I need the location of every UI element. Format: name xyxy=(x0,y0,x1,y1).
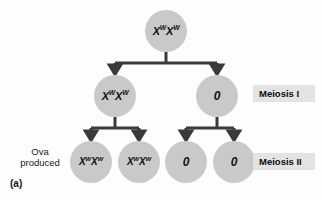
stage-label-meiosis-2: Meiosis II xyxy=(253,153,315,170)
stage-label-meiosis-1: Meiosis I xyxy=(253,85,315,102)
cell-ovum-4: 0 xyxy=(213,141,255,183)
panel-letter: (a) xyxy=(10,178,22,189)
connector-parent-to-meiosis1 xyxy=(115,52,217,70)
cell-ovum-3: 0 xyxy=(165,141,207,183)
cell-meiosis1-left: XWXW xyxy=(94,75,136,117)
cell-parent-genotype: XWXW xyxy=(153,26,180,37)
cell-ovum-4-genotype: 0 xyxy=(231,156,237,168)
cell-ovum-2-genotype: XWXW xyxy=(127,157,151,167)
connector-meiosis1-right-to-ova xyxy=(186,117,234,136)
ova-produced-note-line2: produced xyxy=(12,158,68,169)
cell-ovum-1-genotype: XWXW xyxy=(79,157,103,167)
cell-meiosis1-right: 0 xyxy=(196,75,238,117)
cell-meiosis1-right-genotype: 0 xyxy=(214,90,220,102)
cell-meiosis1-left-genotype: XWXW xyxy=(102,91,129,102)
oogenesis-nondisjunction-diagram: XWXW XWXW 0 XWXW XWXW 0 0 Meiosis I Meio… xyxy=(0,0,322,200)
ova-produced-note: Ova produced xyxy=(12,147,68,169)
connector-meiosis1-left-to-ova xyxy=(91,117,139,136)
cell-ovum-2: XWXW xyxy=(118,141,160,183)
cell-ovum-3-genotype: 0 xyxy=(183,156,189,168)
cell-ovum-1: XWXW xyxy=(70,141,112,183)
cell-parent: XWXW xyxy=(145,10,187,52)
